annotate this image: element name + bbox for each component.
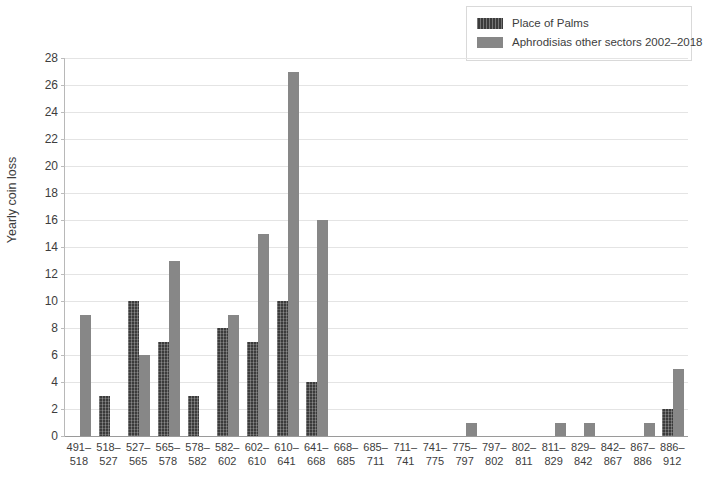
bar-aphrodisias-other-sectors[interactable] bbox=[644, 423, 655, 437]
x-axis-tick-label: 668–685 bbox=[331, 440, 361, 468]
bar-group bbox=[124, 58, 154, 436]
bar-aphrodisias-other-sectors[interactable] bbox=[673, 369, 684, 437]
bar-group bbox=[302, 58, 332, 436]
legend-swatch-gray-solid-icon bbox=[477, 37, 503, 48]
bar-group bbox=[184, 58, 214, 436]
bar-group bbox=[451, 58, 481, 436]
x-axis-tick-label: 829–842 bbox=[568, 440, 598, 468]
bar-aphrodisias-other-sectors[interactable] bbox=[288, 72, 299, 437]
x-axis-tick-label: 711–741 bbox=[390, 440, 420, 468]
bar-place-of-palms[interactable] bbox=[306, 382, 317, 436]
x-axis-tick-label: 797–802 bbox=[479, 440, 509, 468]
y-axis-tick-label: 14 bbox=[45, 241, 58, 253]
x-axis-tick-label: 602–610 bbox=[242, 440, 272, 468]
y-axis-tick-label: 8 bbox=[51, 322, 58, 334]
y-axis-tick-label: 6 bbox=[51, 349, 58, 361]
bar-group bbox=[332, 58, 362, 436]
bar-place-of-palms[interactable] bbox=[217, 328, 228, 436]
bar-group bbox=[569, 58, 599, 436]
y-axis-tick-label: 22 bbox=[45, 133, 58, 145]
y-axis-tick-label: 24 bbox=[45, 106, 58, 118]
x-axis-tick-label: 867–886 bbox=[628, 440, 658, 468]
y-axis-tick-label: 12 bbox=[45, 268, 58, 280]
bar-aphrodisias-other-sectors[interactable] bbox=[80, 315, 91, 437]
bar-place-of-palms[interactable] bbox=[99, 396, 110, 437]
bar-place-of-palms[interactable] bbox=[188, 396, 199, 437]
bar-group bbox=[480, 58, 510, 436]
bar-group bbox=[540, 58, 570, 436]
bar-place-of-palms[interactable] bbox=[128, 301, 139, 436]
bar-group bbox=[243, 58, 273, 436]
x-axis-tick-label: 842–867 bbox=[598, 440, 628, 468]
bar-group bbox=[599, 58, 629, 436]
plot-area: 0246810121416182022242628 bbox=[64, 58, 688, 437]
x-axis-tick-label: 578–582 bbox=[183, 440, 213, 468]
bar-aphrodisias-other-sectors[interactable] bbox=[228, 315, 239, 437]
x-axis-tick-label: 775–797 bbox=[450, 440, 480, 468]
bar-group bbox=[95, 58, 125, 436]
bar-group bbox=[65, 58, 95, 436]
y-axis-tick-label: 16 bbox=[45, 214, 58, 226]
x-axis-tick-label: 518–527 bbox=[94, 440, 124, 468]
y-axis-tick-label: 0 bbox=[51, 430, 58, 442]
bar-series-container bbox=[65, 58, 688, 436]
bar-aphrodisias-other-sectors[interactable] bbox=[317, 220, 328, 436]
x-axis-tick-label: 491–518 bbox=[64, 440, 94, 468]
bar-aphrodisias-other-sectors[interactable] bbox=[169, 261, 180, 437]
legend-label-aphrodisias-other-sectors: Aphrodisias other sectors 2002–2018 bbox=[512, 36, 703, 49]
x-axis-tick-label: 811–829 bbox=[539, 440, 569, 468]
x-axis-tick-label: 610–641 bbox=[272, 440, 302, 468]
bar-group bbox=[421, 58, 451, 436]
x-axis-tick-label: 565–578 bbox=[153, 440, 183, 468]
bar-group bbox=[510, 58, 540, 436]
y-axis-tick-label: 20 bbox=[45, 160, 58, 172]
x-axis-tick-label: 802–811 bbox=[509, 440, 539, 468]
bar-group bbox=[658, 58, 688, 436]
legend-swatch-dark-hatched-icon bbox=[477, 18, 503, 29]
y-axis-title: Yearly coin loss bbox=[2, 0, 22, 484]
x-axis-tick-label: 741–775 bbox=[420, 440, 450, 468]
y-axis-tick-label: 2 bbox=[51, 403, 58, 415]
y-axis-tick-label: 26 bbox=[45, 79, 58, 91]
y-axis-title-text: Yearly coin loss bbox=[5, 157, 19, 243]
x-axis-tick-label: 641–668 bbox=[301, 440, 331, 468]
bar-place-of-palms[interactable] bbox=[277, 301, 288, 436]
y-axis-tick-label: 4 bbox=[51, 376, 58, 388]
bar-group bbox=[362, 58, 392, 436]
x-axis-labels: 491–518518–527527–565565–578578–582582–6… bbox=[64, 440, 687, 468]
chart-legend: Place of Palms Aphrodisias other sectors… bbox=[466, 6, 692, 61]
legend-label-place-of-palms: Place of Palms bbox=[512, 17, 589, 30]
x-axis-tick-label: 685–711 bbox=[361, 440, 391, 468]
bar-aphrodisias-other-sectors[interactable] bbox=[139, 355, 150, 436]
bar-aphrodisias-other-sectors[interactable] bbox=[555, 423, 566, 437]
bar-place-of-palms[interactable] bbox=[158, 342, 169, 437]
y-axis-tick-mark bbox=[61, 436, 65, 437]
legend-item-place-of-palms[interactable]: Place of Palms bbox=[477, 14, 683, 33]
bar-aphrodisias-other-sectors[interactable] bbox=[258, 234, 269, 437]
y-axis-tick-label: 18 bbox=[45, 187, 58, 199]
y-axis-tick-label: 10 bbox=[45, 295, 58, 307]
x-axis-tick-label: 582–602 bbox=[212, 440, 242, 468]
bar-group bbox=[154, 58, 184, 436]
bar-group bbox=[213, 58, 243, 436]
bar-aphrodisias-other-sectors[interactable] bbox=[466, 423, 477, 437]
bar-place-of-palms[interactable] bbox=[247, 342, 258, 437]
bar-place-of-palms[interactable] bbox=[662, 409, 673, 436]
x-axis-tick-label: 886–912 bbox=[657, 440, 687, 468]
legend-item-aphrodisias-other-sectors[interactable]: Aphrodisias other sectors 2002–2018 bbox=[477, 33, 683, 52]
bar-aphrodisias-other-sectors[interactable] bbox=[584, 423, 595, 437]
bar-group bbox=[391, 58, 421, 436]
bar-group bbox=[273, 58, 303, 436]
x-axis-tick-label: 527–565 bbox=[123, 440, 153, 468]
bar-group bbox=[629, 58, 659, 436]
y-axis-tick-label: 28 bbox=[45, 52, 58, 64]
